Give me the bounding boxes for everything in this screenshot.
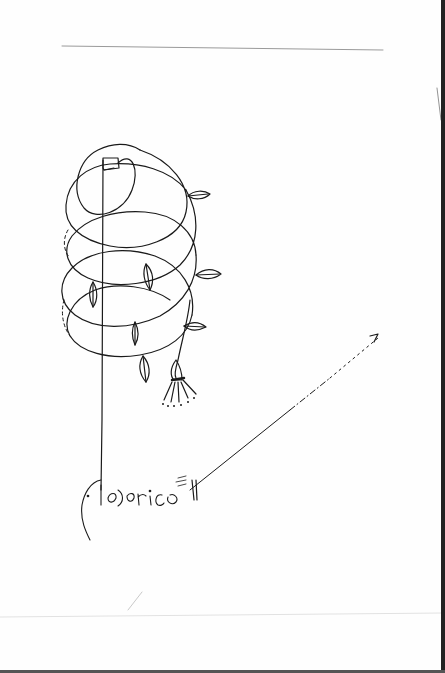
line-drawing — [0, 0, 445, 673]
drawing-page: federico — [0, 0, 445, 673]
leaf — [188, 191, 210, 199]
leaf — [184, 323, 206, 330]
signature — [82, 480, 177, 540]
leaf — [132, 322, 138, 345]
top-rule — [62, 46, 383, 50]
arrow — [176, 334, 378, 500]
stray-mark — [128, 592, 142, 610]
leaf — [144, 264, 153, 290]
leaf — [90, 282, 97, 307]
bell-flower — [164, 360, 196, 402]
leaf — [196, 270, 221, 279]
bottom-fold-line — [0, 613, 445, 617]
leaf — [140, 356, 149, 382]
page-edge-right — [441, 0, 445, 673]
spiral-vine — [62, 144, 196, 378]
